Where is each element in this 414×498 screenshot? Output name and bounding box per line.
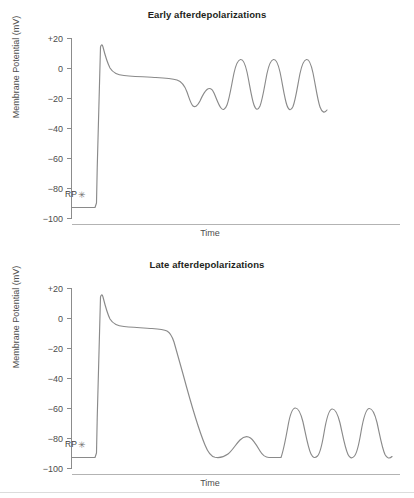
y-tick-label: +20: [48, 284, 63, 294]
x-axis-label-ead: Time: [60, 228, 360, 238]
y-tick-label: −100: [43, 464, 63, 474]
waveform-trace-ead: [72, 45, 327, 208]
afterdepolarization-figure: Early afterdepolarizations Membrane Pote…: [0, 0, 414, 498]
asterisk-icon: ✳: [78, 191, 86, 200]
y-tick-label: −40: [48, 124, 63, 134]
y-tick-label: +20: [48, 34, 63, 44]
asterisk-icon: ✳: [78, 441, 86, 450]
y-tick-label: −20: [48, 94, 63, 104]
y-tick-label: 0: [58, 314, 63, 324]
resting-potential-annotation-ead: RP✳: [65, 190, 86, 200]
y-tick-labels-dad: +20 0 −20 −40 −60 −80 −100: [43, 284, 63, 474]
y-tick-label: −100: [43, 214, 63, 224]
waveform-trace-dad: [72, 295, 392, 458]
y-tick-label: 0: [58, 64, 63, 74]
rp-text: RP: [65, 189, 77, 199]
resting-potential-annotation-dad: RP✳: [65, 440, 86, 450]
x-axis-label-dad: Time: [60, 478, 360, 488]
y-tick-labels-ead: +20 0 −20 −40 −60 −80 −100: [43, 34, 63, 224]
panel-late-afterdepolarizations: Late afterdepolarizations Membrane Poten…: [0, 250, 414, 498]
y-tick-label: −80: [48, 434, 63, 444]
y-tick-label: −60: [48, 404, 63, 414]
rp-text: RP: [65, 439, 77, 449]
plot-area-dad: +20 0 −20 −40 −60 −80 −100: [0, 250, 414, 498]
footer-divider: [0, 492, 414, 493]
y-tick-label: −60: [48, 154, 63, 164]
panel-early-afterdepolarizations: Early afterdepolarizations Membrane Pote…: [0, 0, 414, 248]
plot-area-ead: +20 0 −20 −40 −60 −80 −100: [0, 0, 414, 248]
y-tick-label: −80: [48, 184, 63, 194]
y-tick-label: −20: [48, 344, 63, 354]
y-tick-label: −40: [48, 374, 63, 384]
